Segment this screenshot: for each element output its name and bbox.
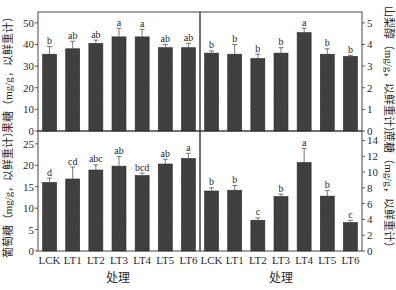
bar-lt1 bbox=[228, 54, 242, 131]
significance-letter: b bbox=[279, 36, 284, 47]
y-tick-label: 3 bbox=[367, 60, 373, 72]
significance-letter: a bbox=[186, 142, 191, 153]
bar-lt3 bbox=[274, 197, 288, 251]
significance-letter: b bbox=[209, 176, 214, 187]
y-tick-label: 50 bbox=[23, 17, 35, 29]
significance-letter: b bbox=[325, 37, 330, 48]
bar-lt4 bbox=[297, 33, 311, 131]
significance-letter: ab bbox=[161, 33, 170, 44]
y-tick-label: 8 bbox=[367, 182, 373, 194]
y-tick-label: 0 bbox=[367, 245, 373, 257]
x-tick-label: LT6 bbox=[341, 254, 359, 266]
x-tick-label: LT5 bbox=[318, 254, 336, 266]
significance-letter: c bbox=[256, 206, 261, 217]
y-tick-label: 4 bbox=[367, 38, 373, 50]
y-tick-label: 30 bbox=[23, 60, 35, 72]
panel-top-left: bababaaabab01020304050 bbox=[23, 12, 200, 137]
xlabel-right: 处理 bbox=[269, 271, 293, 285]
y-tick-label: 6 bbox=[367, 198, 373, 210]
plots: bababaaabab01020304050bbbbabb012345dLCKc… bbox=[23, 12, 379, 266]
y-tick-label: 12 bbox=[367, 150, 378, 162]
x-tick-label: LT2 bbox=[249, 254, 267, 266]
bar-lt4 bbox=[297, 163, 311, 251]
panel-bottom-right: bLCKbLT1cLT2bLT3aLT4bLT5cLT602468101214 bbox=[200, 131, 379, 266]
bar-lt3 bbox=[274, 53, 288, 131]
bar-lt2 bbox=[89, 170, 103, 251]
bar-lt1 bbox=[66, 49, 80, 131]
y-tick-label: 10 bbox=[367, 166, 379, 178]
x-tick-label: LT1 bbox=[226, 254, 244, 266]
significance-letter: b bbox=[279, 183, 284, 194]
y-tick-label: 15 bbox=[23, 181, 35, 193]
bar-lt6 bbox=[343, 223, 357, 251]
y-tick-label: 4 bbox=[367, 213, 373, 225]
significance-letter: b bbox=[325, 179, 330, 190]
significance-letter: a bbox=[140, 18, 145, 29]
bar-lt5 bbox=[320, 196, 334, 251]
y-tick-label: 25 bbox=[23, 138, 35, 150]
x-tick-label: LT3 bbox=[272, 254, 290, 266]
y-tick-label: 5 bbox=[29, 224, 35, 236]
sugar-content-figure: bababaaabab01020304050bbbbabb012345dLCKc… bbox=[0, 0, 396, 290]
x-tick-label: LT4 bbox=[295, 254, 313, 266]
significance-letter: ab bbox=[184, 32, 193, 43]
bar-lt4 bbox=[135, 176, 149, 251]
bar-lck bbox=[43, 182, 57, 251]
ylabel-top-left: 果糖（mg/g，以鲜重计） bbox=[1, 11, 14, 133]
bar-lt6 bbox=[343, 56, 357, 131]
y-tick-label: 14 bbox=[367, 134, 379, 146]
bar-lt5 bbox=[158, 48, 172, 131]
bar-lck bbox=[205, 53, 219, 131]
bar-lt2 bbox=[251, 220, 265, 251]
x-tick-label: LT5 bbox=[156, 254, 174, 266]
y-tick-label: 2 bbox=[367, 82, 373, 94]
significance-letter: b bbox=[255, 43, 260, 54]
significance-letter: b bbox=[209, 39, 214, 50]
x-tick-label: LT4 bbox=[133, 254, 151, 266]
x-tick-label: LT3 bbox=[110, 254, 128, 266]
y-tick-label: 5 bbox=[367, 17, 373, 29]
ylabel-bottom-left: 葡萄糖（mg/g，以鲜重计） bbox=[1, 126, 14, 259]
panel-bottom-left: dLCKcdLT1abcLT2abLT3bcdLT4abLT5aLT605101… bbox=[23, 131, 200, 266]
significance-letter: abc bbox=[89, 153, 103, 164]
bar-lck bbox=[43, 54, 57, 131]
y-tick-label: 1 bbox=[367, 103, 373, 115]
significance-letter: ab bbox=[161, 148, 170, 159]
significance-letter: a bbox=[302, 17, 307, 28]
bar-lt4 bbox=[135, 37, 149, 131]
significance-letter: a bbox=[302, 137, 307, 148]
xlabel-left: 处理 bbox=[106, 271, 130, 285]
bar-lt2 bbox=[89, 43, 103, 131]
bar-lt2 bbox=[251, 59, 265, 131]
bar-lt3 bbox=[112, 166, 126, 251]
y-tick-label: 10 bbox=[23, 103, 35, 115]
bar-lt6 bbox=[181, 48, 195, 131]
y-tick-label: 20 bbox=[23, 82, 35, 94]
x-tick-label: LT2 bbox=[87, 254, 105, 266]
significance-letter: ab bbox=[114, 145, 123, 156]
significance-letter: ab bbox=[91, 29, 100, 40]
significance-letter: b bbox=[47, 35, 52, 46]
significance-letter: ab bbox=[68, 30, 77, 41]
x-tick-label: LCK bbox=[39, 254, 61, 266]
y-tick-label: 0 bbox=[29, 125, 35, 137]
significance-letter: b bbox=[232, 33, 237, 44]
y-tick-label: 20 bbox=[23, 159, 35, 171]
significance-letter: a bbox=[117, 17, 122, 28]
y-tick-label: 0 bbox=[29, 245, 35, 257]
bar-lt6 bbox=[181, 158, 195, 251]
significance-letter: d bbox=[47, 167, 52, 178]
y-tick-label: 40 bbox=[23, 38, 35, 50]
bar-lck bbox=[205, 191, 219, 251]
bar-lt1 bbox=[66, 179, 80, 251]
bar-lt5 bbox=[320, 54, 334, 131]
significance-letter: b bbox=[348, 44, 353, 55]
bar-lt3 bbox=[112, 37, 126, 131]
y-tick-label: 2 bbox=[367, 229, 373, 241]
x-tick-label: LT6 bbox=[179, 254, 197, 266]
y-tick-label: 10 bbox=[23, 202, 35, 214]
significance-letter: b bbox=[232, 174, 237, 185]
x-tick-label: LCK bbox=[201, 254, 223, 266]
significance-letter: c bbox=[348, 209, 353, 220]
panel-top-right: bbbbabb012345 bbox=[200, 12, 373, 137]
